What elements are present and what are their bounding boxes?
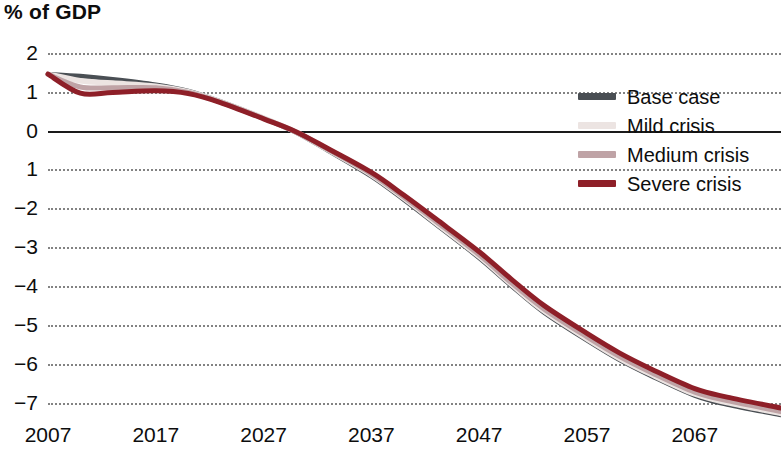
- chart-figure: % of GDP 2101−2−3−4−5−6−7 20072017202720…: [0, 0, 781, 461]
- y-tick-label: −2: [0, 197, 38, 218]
- y-tick-label: 0: [0, 120, 38, 141]
- y-tick-label: −4: [0, 275, 38, 296]
- legend-item[interactable]: Severe crisis: [578, 169, 778, 198]
- y-tick-label: 1: [0, 81, 38, 102]
- legend-color-swatch: [578, 93, 616, 100]
- x-tick-label: 2047: [444, 424, 514, 445]
- chart-legend: Base caseMild crisisMedium crisisSevere …: [578, 82, 778, 198]
- legend-item-label: Mild crisis: [627, 116, 715, 136]
- legend-item[interactable]: Medium crisis: [578, 140, 778, 169]
- legend-color-swatch: [578, 180, 616, 187]
- legend-color-swatch: [578, 151, 616, 158]
- x-tick-label: 2017: [121, 424, 191, 445]
- legend-color-swatch: [578, 122, 616, 129]
- y-tick-label: 1: [0, 158, 38, 179]
- legend-item-label: Severe crisis: [627, 174, 741, 194]
- y-tick-label: 2: [0, 42, 38, 63]
- legend-item[interactable]: Mild crisis: [578, 111, 778, 140]
- x-tick-label: 2057: [552, 424, 622, 445]
- legend-item-label: Base case: [627, 87, 720, 107]
- x-tick-label: 2027: [229, 424, 299, 445]
- x-tick-label: 2007: [13, 424, 83, 445]
- x-tick-label: 2037: [336, 424, 406, 445]
- x-tick-label: 2067: [660, 424, 730, 445]
- y-tick-label: −7: [0, 392, 38, 413]
- y-tick-label: −6: [0, 353, 38, 374]
- y-tick-label: −5: [0, 314, 38, 335]
- legend-item-label: Medium crisis: [627, 145, 749, 165]
- legend-item[interactable]: Base case: [578, 82, 778, 111]
- y-axis-title: % of GDP: [4, 0, 101, 24]
- y-tick-label: −3: [0, 236, 38, 257]
